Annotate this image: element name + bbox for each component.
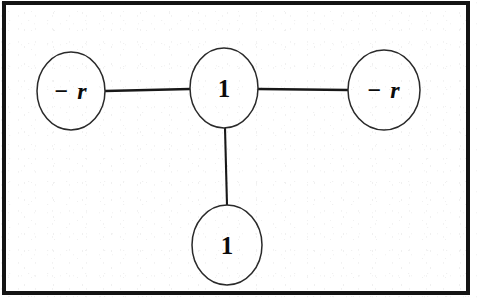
node-right-label: − r bbox=[367, 77, 401, 103]
node-center-label: 1 bbox=[218, 75, 231, 102]
edge-center-bottom bbox=[225, 128, 227, 205]
node-bottom-label: 1 bbox=[221, 232, 234, 259]
node-group: − r 1 − r 1 bbox=[37, 48, 420, 285]
figure-canvas: − r 1 − r 1 bbox=[0, 0, 477, 301]
node-bottom[interactable]: 1 bbox=[192, 205, 262, 285]
node-left-label: − r bbox=[54, 78, 88, 104]
node-right[interactable]: − r bbox=[348, 50, 420, 130]
edge-center-right bbox=[258, 89, 348, 90]
node-center[interactable]: 1 bbox=[190, 48, 258, 128]
edge-left-center bbox=[105, 89, 190, 91]
node-left[interactable]: − r bbox=[37, 52, 105, 130]
graph-diagram: − r 1 − r 1 bbox=[0, 0, 477, 301]
